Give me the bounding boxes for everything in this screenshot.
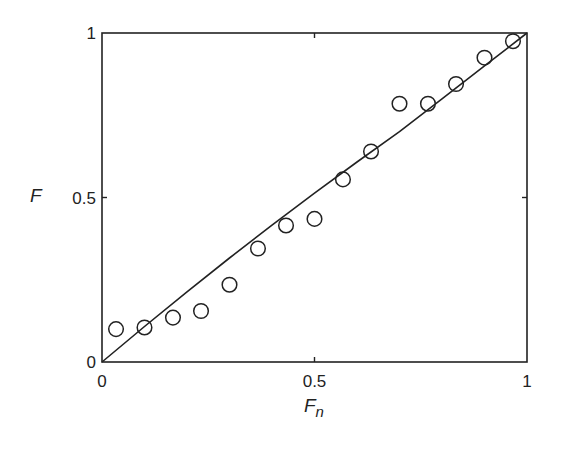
circle-marker <box>279 218 294 233</box>
x-tick-label: 0.5 <box>303 372 327 391</box>
y-axis-label: F <box>30 185 43 206</box>
y-tick-label: 1 <box>87 24 96 43</box>
circle-marker <box>506 34 521 49</box>
circle-marker <box>194 304 209 319</box>
x-axis-label: Fn <box>304 395 324 420</box>
circle-marker <box>392 96 407 111</box>
circle-marker <box>477 50 492 65</box>
y-tick-label: 0.5 <box>72 189 96 208</box>
circle-marker <box>222 277 237 292</box>
circle-marker <box>166 310 181 325</box>
circle-marker <box>109 322 124 337</box>
chart: 00.5100.51 F Fn <box>0 0 562 449</box>
x-tick-label: 0 <box>97 372 106 391</box>
circle-marker <box>307 212 322 227</box>
data-markers <box>109 34 521 336</box>
circle-marker <box>251 241 266 256</box>
x-tick-label: 1 <box>522 372 531 391</box>
y-tick-label: 0 <box>87 353 96 372</box>
x-axis-label-subscript: n <box>316 403 324 420</box>
axis-tick-labels: 00.5100.51 <box>72 24 531 391</box>
circle-marker <box>336 172 351 187</box>
